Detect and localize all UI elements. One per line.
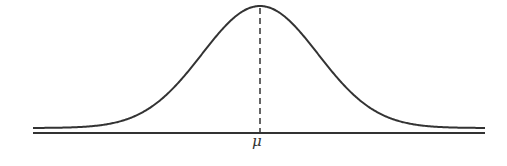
bell-curve [33,6,485,128]
mean-label: μ [252,134,262,149]
